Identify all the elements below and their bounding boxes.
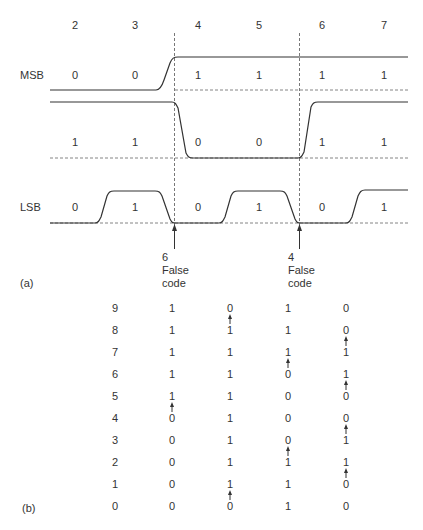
timing-diagram: 2 3 4 5 6 7 MSB 0 0 1 1 1 1 1 1 0 0 1 1 … — [0, 0, 423, 530]
bit-cell: 0 — [285, 434, 291, 446]
bit-value: 1 — [195, 69, 201, 81]
arrow-up-icon — [344, 468, 348, 478]
bit-cell: 1 — [169, 324, 175, 336]
bit-cell: 0 — [343, 500, 349, 512]
bit-value: 1 — [132, 136, 138, 148]
bit-cell: 0 — [169, 434, 175, 446]
bit-value: 1 — [319, 69, 325, 81]
lsb-waveform — [50, 190, 408, 223]
table-row: 00010 — [112, 500, 349, 512]
bit-value: 1 — [381, 136, 387, 148]
column-label: 3 — [132, 19, 138, 31]
bit-cell: 1 — [227, 390, 233, 402]
arrow-up-icon — [297, 224, 302, 231]
bit-cell: 1 — [343, 434, 349, 446]
arrow-up-icon — [170, 402, 174, 412]
row-number: 4 — [112, 412, 118, 424]
bit-cell: 0 — [285, 390, 291, 402]
bit-cell: 1 — [285, 456, 291, 468]
bit-value: 1 — [381, 201, 387, 213]
bit-cell: 0 — [285, 412, 291, 424]
bit-value: 1 — [381, 69, 387, 81]
bit-cell: 0 — [227, 302, 233, 314]
arrow-up-icon — [228, 314, 232, 324]
bit-value: 0 — [319, 201, 325, 213]
bit-value: 1 — [132, 201, 138, 213]
arrow-up-icon — [344, 380, 348, 390]
table-row: 51100 — [112, 390, 349, 412]
row-number: 0 — [112, 500, 118, 512]
bit-cell: 0 — [169, 478, 175, 490]
table-row: 10110 — [112, 478, 349, 500]
bit-cell: 1 — [285, 302, 291, 314]
table-row: 30101 — [112, 434, 349, 456]
arrow-up-icon — [344, 424, 348, 434]
bit-cell: 1 — [343, 456, 349, 468]
row-number: 3 — [112, 434, 118, 446]
part-a-label: (a) — [20, 277, 33, 289]
bit-cell: 0 — [343, 412, 349, 424]
row-number: 7 — [112, 346, 118, 358]
row-number: 2 — [112, 456, 118, 468]
bit-cell: 0 — [343, 390, 349, 402]
bit-cell: 0 — [285, 368, 291, 380]
msb-bits: 0 0 1 1 1 1 — [72, 69, 387, 81]
bit-cell: 1 — [227, 478, 233, 490]
bit-cell: 1 — [169, 390, 175, 402]
mid-waveform — [50, 102, 408, 158]
bit-value: 0 — [256, 136, 262, 148]
bit-cell: 1 — [285, 478, 291, 490]
bit-cell: 1 — [227, 324, 233, 336]
bit-value: 1 — [72, 136, 78, 148]
bit-cell: 0 — [227, 500, 233, 512]
table-row: 40100 — [112, 412, 349, 434]
bit-cell: 0 — [343, 478, 349, 490]
mid-bits: 1 1 0 0 1 1 — [72, 136, 387, 148]
false-code-text: False — [288, 264, 315, 276]
bit-value: 1 — [319, 136, 325, 148]
bit-value: 1 — [256, 69, 262, 81]
bit-cell: 1 — [343, 368, 349, 380]
bit-cell: 0 — [169, 500, 175, 512]
bit-value: 0 — [195, 201, 201, 213]
msb-waveform — [50, 57, 408, 90]
column-labels: 2 3 4 5 6 7 — [72, 19, 387, 31]
arrow-up-icon — [344, 336, 348, 346]
lsb-label: LSB — [20, 201, 41, 213]
bit-cell: 1 — [227, 368, 233, 380]
bit-value: 0 — [132, 69, 138, 81]
bit-cell: 1 — [285, 346, 291, 358]
bit-cell: 1 — [343, 346, 349, 358]
bit-cell: 0 — [169, 412, 175, 424]
bit-cell: 1 — [227, 346, 233, 358]
bit-cell: 0 — [343, 302, 349, 314]
bit-cell: 1 — [169, 302, 175, 314]
bit-value: 0 — [72, 201, 78, 213]
false-code-annotation: 6 False code — [162, 224, 189, 289]
bit-value: 1 — [256, 201, 262, 213]
bit-cell: 0 — [343, 324, 349, 336]
transition-markers — [175, 33, 300, 226]
table-row: 91010 — [112, 302, 349, 324]
bit-cell: 1 — [169, 346, 175, 358]
part-b-label: (b) — [22, 502, 35, 514]
bit-value: 0 — [72, 69, 78, 81]
table-row: 61101 — [112, 368, 349, 390]
row-number: 8 — [112, 324, 118, 336]
row-number: 9 — [112, 302, 118, 314]
row-number: 6 — [112, 368, 118, 380]
bit-cell: 1 — [227, 434, 233, 446]
row-number: 5 — [112, 390, 118, 402]
column-label: 5 — [256, 19, 262, 31]
bit-cell: 1 — [169, 368, 175, 380]
column-label: 4 — [195, 19, 201, 31]
bit-cell: 1 — [285, 500, 291, 512]
bit-cell: 1 — [227, 412, 233, 424]
false-code-text: code — [162, 277, 186, 289]
msb-label: MSB — [20, 69, 44, 81]
code-table: 9101081110711116110151100401003010120111… — [112, 302, 349, 512]
table-row: 71111 — [112, 346, 349, 368]
arrow-up-icon — [286, 446, 290, 456]
column-label: 2 — [72, 19, 78, 31]
bit-cell: 1 — [227, 456, 233, 468]
